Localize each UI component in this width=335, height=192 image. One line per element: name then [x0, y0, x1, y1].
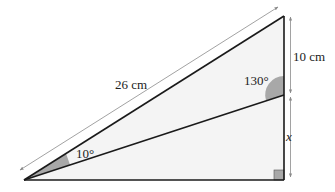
triangle-diagram: 26 cm 10 cm x 130° 10° — [0, 0, 335, 192]
label-x: x — [285, 129, 292, 144]
label-angle-10: 10° — [76, 146, 94, 161]
label-upper-segment: 10 cm — [293, 49, 325, 64]
right-angle-marker — [274, 170, 284, 180]
label-angle-130: 130° — [244, 73, 269, 88]
label-hypotenuse: 26 cm — [115, 77, 147, 92]
